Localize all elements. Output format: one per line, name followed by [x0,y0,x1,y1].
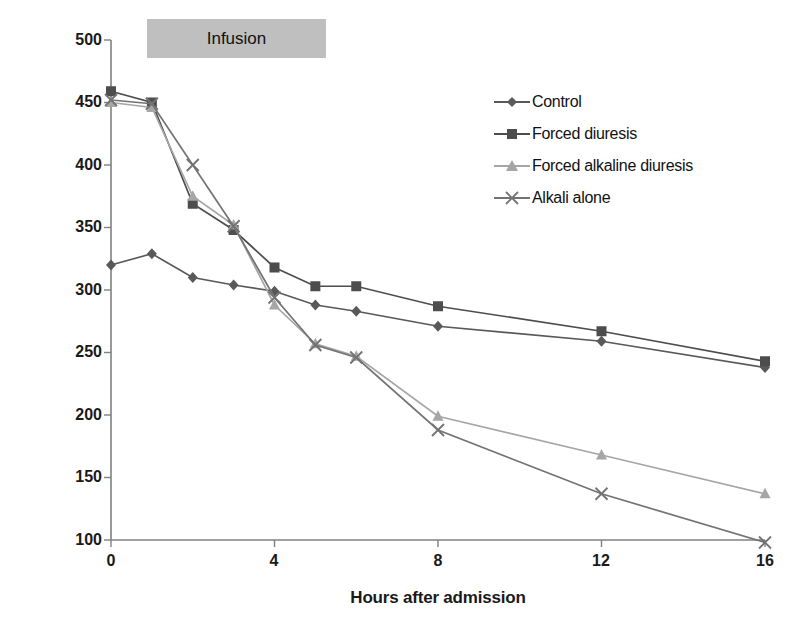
data-point-marker [760,356,770,366]
data-point-marker [229,280,239,291]
legend-item-forced-diuresis[interactable]: Forced diuresis [492,124,693,144]
data-point-marker [597,336,607,347]
data-point-marker [310,300,320,311]
data-point-marker [187,159,199,171]
data-point-marker [106,97,117,108]
legend-label: Alkali alone [532,189,610,207]
legend-item-control[interactable]: Control [492,92,693,112]
legend-label: Forced diuresis [532,125,637,143]
data-point-marker [351,306,361,317]
chart-legend: Control Forced diuresis Forced alkaline … [492,92,693,208]
data-point-marker [433,410,444,421]
diamond-marker-icon [492,93,532,111]
legend-label: Forced alkaline diuresis [532,157,693,175]
data-point-marker [432,424,444,436]
triangle-marker-icon [492,157,532,175]
data-point-marker [188,272,198,283]
data-point-marker [596,488,608,500]
x-marker-icon [492,189,532,207]
data-point-marker [433,321,443,332]
data-point-marker [433,301,443,311]
data-point-marker [106,86,116,96]
data-point-marker [310,281,320,291]
data-point-marker [597,326,607,336]
data-point-marker [106,260,116,271]
data-point-marker [147,248,157,259]
square-marker-icon [492,125,532,143]
legend-item-alkali-alone[interactable]: Alkali alone [492,188,693,208]
chart-figure: Plasma salicylic acid concentration (mg/… [0,0,792,631]
data-point-marker [351,281,361,291]
legend-item-forced-alkaline-diuresis[interactable]: Forced alkaline diuresis [492,156,693,176]
legend-label: Control [532,93,581,111]
data-point-marker [270,263,280,273]
